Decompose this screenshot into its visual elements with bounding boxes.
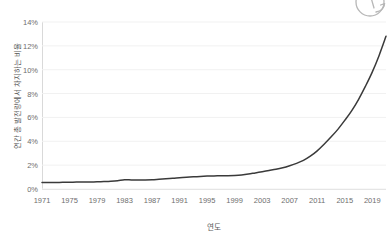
gridlines xyxy=(42,22,386,189)
x-tick-label: 1991 xyxy=(171,196,188,205)
x-tick-label: 1987 xyxy=(144,196,161,205)
series-path-primary xyxy=(42,36,386,182)
x-tick-label: 2015 xyxy=(336,196,353,205)
x-tick-label: 2011 xyxy=(309,196,325,205)
x-tick-label: 1979 xyxy=(89,196,106,205)
x-tick-label: 1975 xyxy=(61,196,78,205)
x-tick-label: 1999 xyxy=(226,196,243,205)
x-tick-label: 1971 xyxy=(34,196,51,205)
x-tick-label: 2003 xyxy=(254,196,271,205)
plot-area xyxy=(42,22,386,189)
x-tick-label: 2007 xyxy=(281,196,298,205)
x-tick-label: 2019 xyxy=(364,196,381,205)
series-line xyxy=(42,22,386,189)
x-tick-label: 1995 xyxy=(199,196,216,205)
chart-figure: 연간 총 발전량에서 차지하는 비율 연도 0%2%4%6%8%10%12%14… xyxy=(0,0,392,239)
x-tick-label: 1983 xyxy=(116,196,133,205)
